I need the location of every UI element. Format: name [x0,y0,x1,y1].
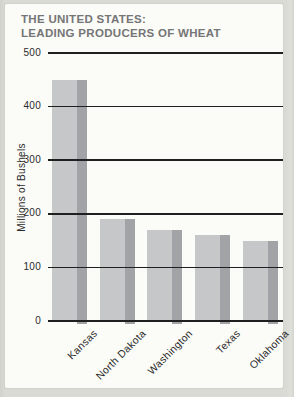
bar-face [195,235,220,321]
x-category-label-texas: Texas [214,327,243,356]
y-axis-label: Millions of Bushels [16,118,29,258]
wheat-bar-chart: Millions of Bushels 0100200300400500Kans… [5,4,283,388]
bar-texas [195,235,230,321]
x-category-label-kansas: Kansas [65,327,100,362]
y-tick-label-200: 200 [9,207,41,218]
y-tick-label-0: 0 [9,315,41,326]
bar-3d-side [172,230,182,324]
x-axis-line [48,320,283,322]
y-tick-label-400: 400 [9,100,41,111]
bar-face [243,241,268,321]
gridline-400 [48,106,283,108]
gridline-200 [48,213,283,215]
bar-face [52,80,77,321]
x-category-label-washington: Washington [145,327,195,377]
x-category-label-oklahoma: Oklahoma [246,327,290,371]
bar-north-dakota [100,219,135,321]
bar-washington [147,230,182,321]
gridline-300 [48,159,283,161]
gridline-100 [48,267,283,269]
bar-3d-side [220,235,230,324]
y-tick-label-500: 500 [9,47,41,58]
x-category-label-north-dakota: North Dakota [93,327,148,382]
scanned-textbook-figure: THE UNITED STATES: LEADING PRODUCERS OF … [0,0,294,397]
figure-page: THE UNITED STATES: LEADING PRODUCERS OF … [5,4,283,388]
bar-3d-side [268,241,278,324]
bar-kansas [52,80,87,321]
bar-3d-side [125,219,135,324]
bar-face [100,219,125,321]
bar-oklahoma [243,241,278,321]
y-tick-label-300: 300 [9,154,41,165]
bar-3d-side [77,80,87,324]
bar-face [147,230,172,321]
y-tick-label-100: 100 [9,261,41,272]
gridline-500 [48,52,283,54]
